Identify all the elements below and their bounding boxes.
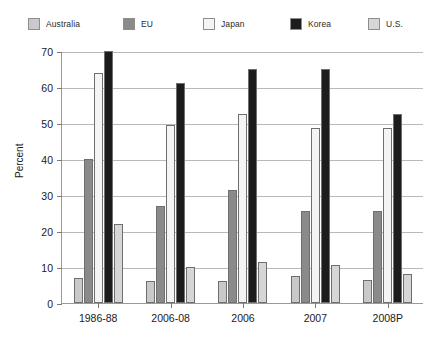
legend-item-australia[interactable]: Australia <box>28 18 80 30</box>
legend-item-korea[interactable]: Korea <box>290 18 331 30</box>
x-axis-tick <box>315 303 316 308</box>
bar[interactable] <box>238 114 247 303</box>
bar[interactable] <box>74 278 83 303</box>
bar[interactable] <box>393 114 402 303</box>
bar[interactable] <box>176 83 185 303</box>
bar[interactable] <box>321 69 330 303</box>
bar[interactable] <box>248 69 257 303</box>
bar[interactable] <box>331 265 340 303</box>
legend-label: Japan <box>221 19 245 29</box>
legend-swatch-icon <box>203 18 215 30</box>
x-axis-tick-label: 2007 <box>304 312 327 324</box>
bar[interactable] <box>218 281 227 303</box>
bar[interactable] <box>146 281 155 303</box>
bar[interactable] <box>258 262 267 303</box>
bar[interactable] <box>363 280 372 303</box>
x-axis-tick <box>98 303 99 308</box>
x-axis-tick-label: 2006 <box>231 312 254 324</box>
bar-group: 1986-88 <box>62 52 134 303</box>
legend-item-us[interactable]: U.S. <box>368 18 403 30</box>
bar-group: 2006 <box>207 52 279 303</box>
bar[interactable] <box>114 224 123 303</box>
y-axis-tick <box>57 304 62 305</box>
y-axis-title: Percent <box>14 144 25 178</box>
legend-label: EU <box>141 19 153 29</box>
bar[interactable] <box>228 190 237 303</box>
y-axis-tick-label: 60 <box>41 82 53 94</box>
bar[interactable] <box>383 128 392 303</box>
x-axis-tick-label: 2008P <box>373 312 403 324</box>
bar[interactable] <box>104 51 113 303</box>
y-axis-tick-label: 30 <box>41 190 53 202</box>
legend-label: Korea <box>308 19 331 29</box>
bar[interactable] <box>311 128 320 303</box>
x-axis-tick <box>171 303 172 308</box>
bar[interactable] <box>373 211 382 303</box>
chart-legend: AustraliaEUJapanKoreaU.S. <box>28 16 428 32</box>
legend-swatch-icon <box>123 18 135 30</box>
legend-label: Australia <box>46 19 80 29</box>
legend-swatch-icon <box>368 18 380 30</box>
y-axis-tick-label: 40 <box>41 154 53 166</box>
y-axis-tick-label: 0 <box>47 298 53 310</box>
bar[interactable] <box>94 73 103 303</box>
bar[interactable] <box>84 159 93 303</box>
bar[interactable] <box>291 276 300 303</box>
x-axis-tick <box>388 303 389 308</box>
y-axis-tick-label: 50 <box>41 118 53 130</box>
bar[interactable] <box>166 125 175 303</box>
bar-group: 2007 <box>279 52 351 303</box>
legend-swatch-icon <box>290 18 302 30</box>
bar-chart: AustraliaEUJapanKoreaU.S. Percent 010203… <box>0 0 448 354</box>
plot-area: 0102030405060701986-882006-0820062007200… <box>61 52 423 304</box>
bar[interactable] <box>403 274 412 303</box>
x-axis-tick <box>243 303 244 308</box>
y-axis-tick-label: 10 <box>41 262 53 274</box>
bar-group: 2006-08 <box>134 52 206 303</box>
legend-swatch-icon <box>28 18 40 30</box>
bar-group: 2008P <box>352 52 424 303</box>
legend-label: U.S. <box>386 19 403 29</box>
legend-item-eu[interactable]: EU <box>123 18 153 30</box>
x-axis-tick-label: 1986-88 <box>79 312 118 324</box>
legend-item-japan[interactable]: Japan <box>203 18 245 30</box>
y-axis-tick-label: 20 <box>41 226 53 238</box>
bar[interactable] <box>301 211 310 303</box>
bar[interactable] <box>156 206 165 303</box>
y-axis-tick-label: 70 <box>41 46 53 58</box>
x-axis-tick-label: 2006-08 <box>151 312 190 324</box>
bar[interactable] <box>186 267 195 303</box>
